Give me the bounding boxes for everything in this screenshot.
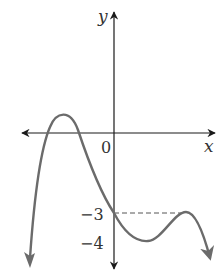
tick-label-neg3: −3 [80, 205, 104, 224]
x-axis-label: x [204, 136, 214, 156]
function-graph: y x 0 −3 −4 [0, 0, 221, 271]
tick-label-neg4: −4 [80, 234, 104, 253]
y-axis-label: y [97, 6, 108, 26]
function-curve [30, 115, 210, 258]
origin-label: 0 [101, 138, 111, 157]
